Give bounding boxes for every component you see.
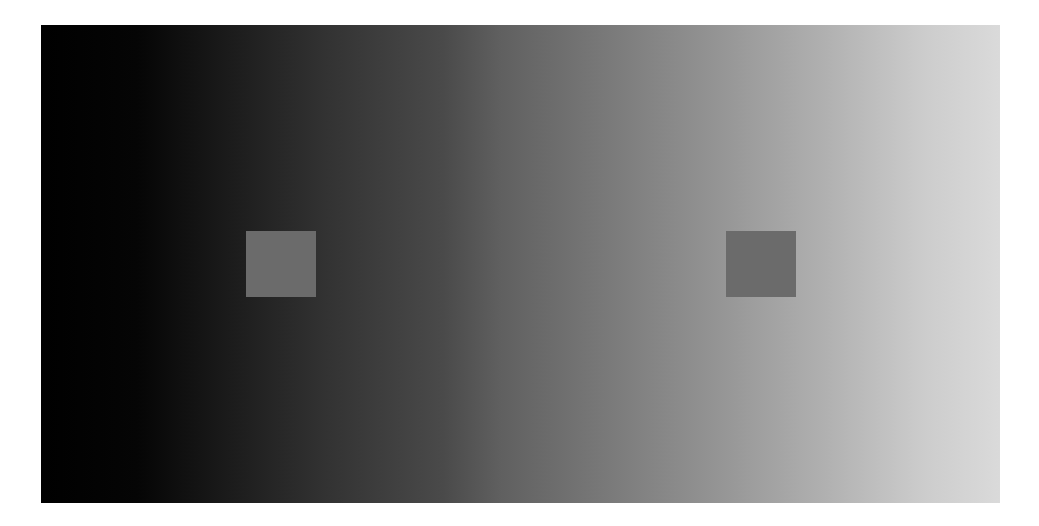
gradient-background — [41, 25, 1000, 503]
gray-square-right — [726, 231, 796, 297]
gray-square-left — [246, 231, 316, 297]
